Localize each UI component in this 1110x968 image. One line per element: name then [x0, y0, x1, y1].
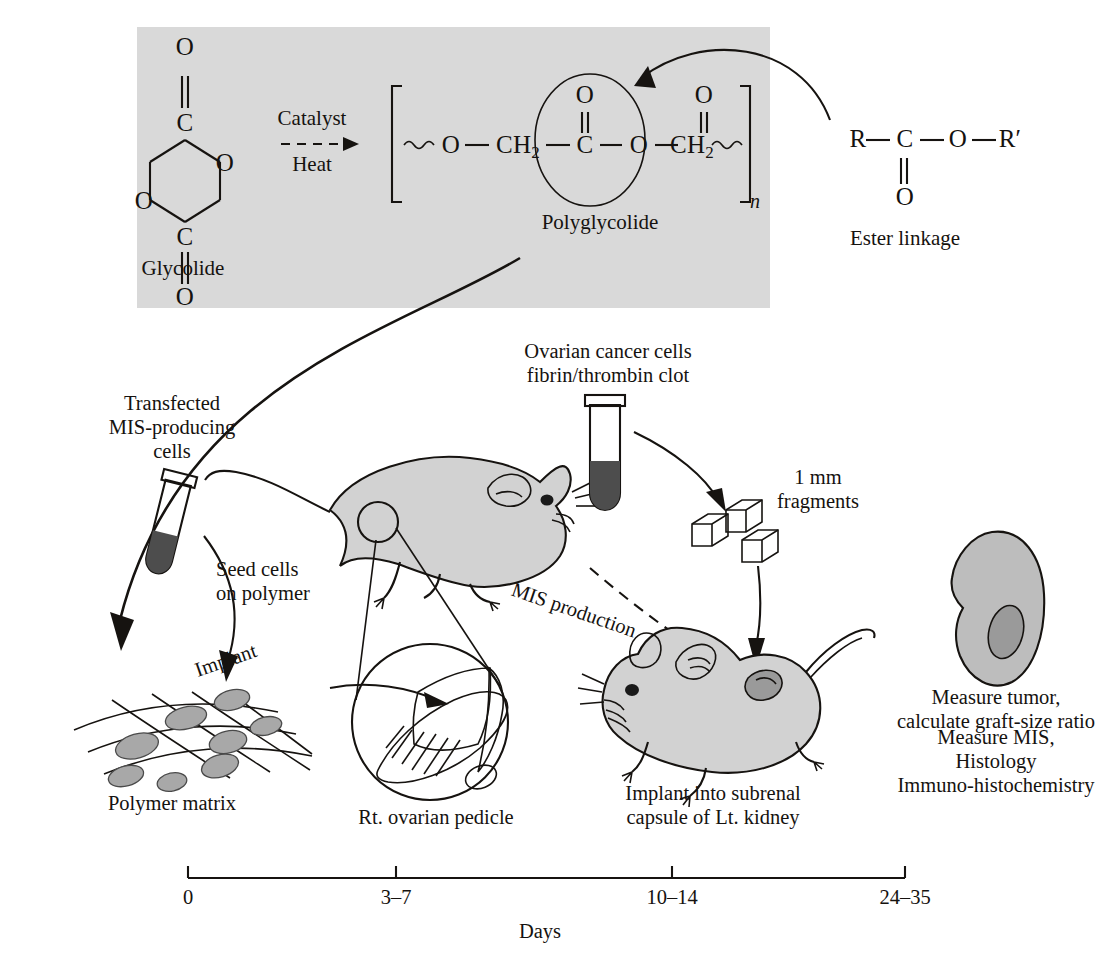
rt-ovarian-pedicle-inset [330, 644, 508, 800]
chain-squiggle-right [712, 142, 742, 149]
timeline-tick-3: 24–35 [879, 886, 930, 910]
glycolide-atom-o-bottom: O [176, 282, 194, 311]
ester-callout-arrow [634, 50, 830, 120]
polymer-repeat-subscript: n [750, 190, 760, 213]
seed-cells-label: Seed cells on polymer [216, 558, 310, 606]
reaction-arrow [281, 137, 359, 151]
kidney-graphic [952, 532, 1045, 686]
polyglycolide-label: Polyglycolide [542, 210, 659, 234]
fragments-arrow [634, 432, 726, 512]
timeline-tick-1: 3–7 [381, 886, 412, 910]
glycolide-atom-c-bottom: C [177, 222, 194, 251]
ester-carbonyl-o: O [896, 182, 914, 211]
polymer-carbonyl-o-1: O [576, 80, 594, 109]
measure-mis-label: Measure MIS, Histology Immuno-histochemi… [897, 726, 1094, 797]
rt-ovarian-pedicle-label: Rt. ovarian pedicle [358, 806, 513, 830]
timeline-tick-0: 0 [183, 886, 193, 910]
heat-label: Heat [292, 152, 332, 176]
tube-ovarian-cancer-cells [585, 395, 625, 510]
polymer-carbonyl-o-2: O [695, 80, 713, 109]
tube-transfected-cells [139, 469, 197, 577]
ester-linkage-bonds [866, 140, 996, 184]
polymer-group-ch2-1: CH2 [496, 130, 540, 162]
polymer-atom-c-1: C [577, 130, 594, 159]
fragments-label: 1 mm fragments [777, 466, 859, 514]
ester-atom-c: C [897, 124, 914, 153]
implant-into-kidney-arrow [748, 566, 765, 668]
catalyst-label: Catalyst [278, 106, 347, 130]
ester-atom-o: O [949, 124, 967, 153]
implant-arrowhead [330, 685, 449, 708]
glycolide-atom-o-left: O [135, 186, 153, 215]
fragment-cubes [692, 500, 778, 562]
glycolide-atom-c-top: C [177, 108, 194, 137]
polymer-atom-o-1: O [442, 130, 460, 159]
glycolide-atom-o-top: O [176, 32, 194, 61]
implant-subrenal-label: Implant into subrenal capsule of Lt. kid… [625, 782, 800, 830]
ester-atom-r: R [850, 124, 867, 153]
transfected-cells-label: Transfected MIS-producing cells [109, 392, 235, 463]
polymer-group-ch2-2: CH2 [670, 130, 714, 162]
polymer-matrix-mesh [74, 686, 312, 794]
chain-squiggle-left [404, 142, 434, 149]
glycolide-atom-o-right: O [216, 148, 234, 177]
ester-atom-r-prime: R′ [999, 124, 1022, 153]
chemistry-artwork [0, 0, 1110, 968]
mouse-recipient [578, 628, 875, 807]
timeline-tick-2: 10–14 [646, 886, 697, 910]
ovarian-cancer-cells-label: Ovarian cancer cells fibrin/thrombin clo… [524, 340, 691, 388]
glycolide-label: Glycolide [142, 256, 225, 280]
figure-canvas: O C O O C O Glycolide Catalyst Heat O CH… [0, 0, 1110, 968]
polymer-matrix-label: Polymer matrix [108, 792, 236, 816]
polymer-atom-o-2: O [630, 130, 648, 159]
ester-linkage-caption: Ester linkage [850, 226, 960, 250]
timeline-axis [188, 866, 905, 878]
timeline-axis-label: Days [519, 920, 561, 944]
